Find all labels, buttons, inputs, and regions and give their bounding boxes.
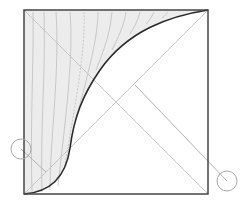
diagram-canvas [0, 0, 244, 210]
diagram-svg [0, 0, 244, 210]
